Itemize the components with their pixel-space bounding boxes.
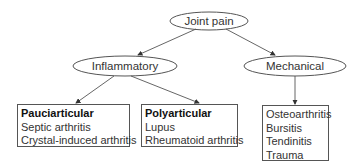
inflammatory-label: Inflammatory — [92, 60, 158, 72]
edge-root-inflammatory — [138, 29, 196, 55]
polyarticular-box: Polyarticular Lupus Rheumatoid arthritis — [141, 104, 238, 147]
mechanical-box: Osteoarthritis Bursitis Tendinitis Traum… — [262, 105, 329, 161]
pauciarticular-item: Septic arthritis — [21, 121, 126, 135]
polyarticular-item: Rheumatoid arthritis — [145, 134, 234, 148]
mechanical-item: Trauma — [266, 149, 325, 163]
pauciarticular-box: Pauciarticular Septic arthritis Crystal-… — [17, 104, 130, 147]
edge-inflammatory-poly — [131, 76, 199, 103]
polyarticular-heading: Polyarticular — [145, 107, 234, 121]
edge-inflammatory-pauci — [76, 76, 114, 103]
edge-root-mechanical — [226, 29, 275, 55]
mechanical-label: Mechanical — [266, 60, 324, 72]
inflammatory-node: Inflammatory — [73, 56, 177, 76]
root-label: Joint pain — [184, 15, 233, 27]
mechanical-item: Tendinitis — [266, 135, 325, 149]
mechanical-item: Bursitis — [266, 122, 325, 136]
pauciarticular-item: Crystal-induced arthritis — [21, 134, 126, 148]
mechanical-item: Osteoarthritis — [266, 108, 325, 122]
pauciarticular-heading: Pauciarticular — [21, 107, 126, 121]
polyarticular-item: Lupus — [145, 121, 234, 135]
root-node: Joint pain — [170, 12, 248, 30]
mechanical-node: Mechanical — [244, 56, 346, 76]
